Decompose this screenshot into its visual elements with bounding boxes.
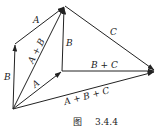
vector-b-middle — [62, 8, 64, 71]
vector-a-lower — [13, 72, 61, 109]
figure-caption-prefix: 图 — [73, 117, 82, 127]
label-a-plus-b: A + B — [25, 37, 47, 66]
vector-diagram: B A A + B A B C B + C A + B + C 图 3.4.4 — [0, 0, 160, 131]
label-c: C — [110, 27, 117, 37]
label-a-plus-b-plus-c: A + B + C — [62, 85, 111, 107]
label-b-left: B — [3, 72, 11, 82]
label-a-top: A — [32, 15, 40, 25]
label-b-middle: B — [65, 38, 73, 48]
label-b-plus-c: B + C — [90, 60, 118, 70]
figure-caption-number: 3.4.4 — [95, 117, 118, 127]
vector-b-left — [13, 45, 15, 109]
